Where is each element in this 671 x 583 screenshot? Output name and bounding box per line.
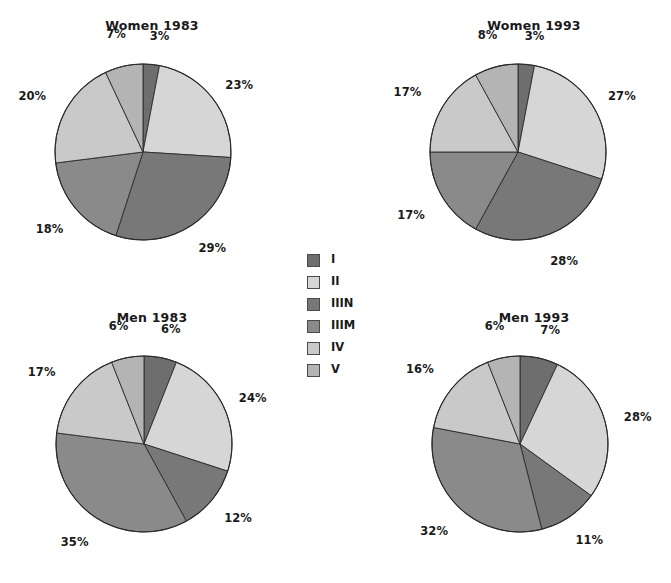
pie-value-label-iv: 16% xyxy=(406,362,434,376)
pie-value-label-iiin: 11% xyxy=(575,533,603,547)
pie-value-label-iiim: 18% xyxy=(36,222,64,236)
pie-value-label-i: 6% xyxy=(161,322,181,336)
legend-item-iiim: IIIM xyxy=(307,315,373,337)
pie-svg-men-1993 xyxy=(424,348,616,540)
legend-swatch-icon-ii xyxy=(307,276,320,289)
legend-swatch-icon-iiim xyxy=(307,320,320,333)
pie-svg-women-1993 xyxy=(422,56,614,248)
pie-value-label-ii: 24% xyxy=(239,391,267,405)
pie-women-1983: 3%23%29%18%20%7% xyxy=(47,56,239,248)
legend-item-iv: IV xyxy=(307,337,373,359)
pie-svg-women-1983 xyxy=(47,56,239,248)
legend-swatch-icon-v xyxy=(307,364,320,377)
pie-value-label-i: 3% xyxy=(150,29,170,43)
legend-item-ii: II xyxy=(307,271,373,293)
pie-value-label-iiim: 17% xyxy=(397,208,425,222)
legend-label: V xyxy=(331,364,340,376)
legend-swatch-icon-iiin xyxy=(307,298,320,311)
pie-value-label-v: 7% xyxy=(106,27,126,41)
pie-panel-men-1993: Men 1993 7%28%11%32%16%6% xyxy=(384,296,671,581)
pie-value-label-iiin: 29% xyxy=(198,241,226,255)
pie-panel-women-1993: Women 1993 3%27%28%17%17%8% xyxy=(384,4,671,289)
pie-value-label-iv: 20% xyxy=(18,89,46,103)
chart-legend: IIIIIINIIIMIVV xyxy=(307,249,373,381)
legend-label: I xyxy=(331,254,335,266)
legend-swatch-icon-iv xyxy=(307,342,320,355)
pie-value-label-iiim: 32% xyxy=(420,524,448,538)
panel-title-women-1983: Women 1983 xyxy=(2,18,360,33)
pie-value-label-i: 3% xyxy=(525,29,545,43)
pie-chart-figure: Women 1983 3%23%29%18%20%7% Women 1993 3… xyxy=(0,0,671,583)
legend-label: IIIN xyxy=(331,298,353,310)
legend-label: II xyxy=(331,276,340,288)
legend-item-iiin: IIIN xyxy=(307,293,373,315)
legend-item-i: I xyxy=(307,249,373,271)
pie-value-label-v: 6% xyxy=(109,319,129,333)
pie-men-1983: 6%24%12%35%17%6% xyxy=(48,348,240,540)
pie-women-1993: 3%27%28%17%17%8% xyxy=(422,56,614,248)
pie-value-label-ii: 27% xyxy=(608,89,636,103)
legend-swatch-icon-i xyxy=(307,254,320,267)
pie-value-label-ii: 28% xyxy=(624,410,652,424)
pie-value-label-iv: 17% xyxy=(394,85,422,99)
legend-label: IV xyxy=(331,342,344,354)
legend-label: IIIM xyxy=(331,320,355,332)
pie-panel-women-1983: Women 1983 3%23%29%18%20%7% xyxy=(2,4,302,289)
pie-value-label-v: 6% xyxy=(485,319,505,333)
pie-value-label-iiin: 12% xyxy=(224,511,252,525)
pie-value-label-iv: 17% xyxy=(28,365,56,379)
pie-value-label-ii: 23% xyxy=(225,78,253,92)
pie-value-label-v: 8% xyxy=(478,28,498,42)
pie-value-label-iiin: 28% xyxy=(550,254,578,268)
pie-value-label-i: 7% xyxy=(540,323,560,337)
pie-svg-men-1983 xyxy=(48,348,240,540)
pie-value-label-iiim: 35% xyxy=(61,535,89,549)
pie-panel-men-1983: Men 1983 6%24%12%35%17%6% xyxy=(2,296,302,581)
legend-item-v: V xyxy=(307,359,373,381)
panel-title-men-1993: Men 1993 xyxy=(384,310,671,325)
pie-men-1993: 7%28%11%32%16%6% xyxy=(424,348,616,540)
